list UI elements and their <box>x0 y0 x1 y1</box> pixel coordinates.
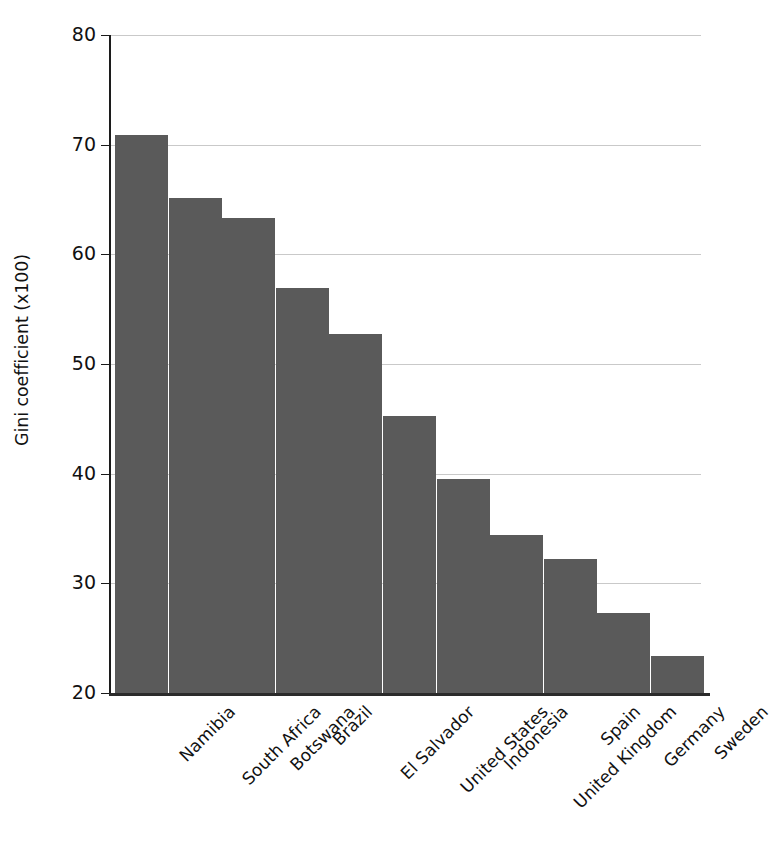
y-axis-title: Gini coefficient (x100) <box>0 0 44 700</box>
bar[interactable] <box>169 198 222 693</box>
bar[interactable] <box>222 218 275 693</box>
x-axis-label: United States <box>457 703 550 796</box>
y-tick-label: 40 <box>48 464 96 483</box>
bar[interactable] <box>329 334 382 693</box>
x-axis-label: Brazil <box>330 703 376 749</box>
bar[interactable] <box>383 416 436 693</box>
bar[interactable] <box>437 479 490 693</box>
bar[interactable] <box>597 613 650 693</box>
bar[interactable] <box>115 135 168 693</box>
plot-area <box>110 35 701 693</box>
y-tick-label: 70 <box>48 135 96 154</box>
y-tick-label: 50 <box>48 354 96 373</box>
y-axis-line <box>109 35 111 694</box>
x-axis-label: South Africa <box>239 703 324 788</box>
x-axis-label: Germany <box>661 703 728 770</box>
x-axis-label: Sweden <box>711 703 771 763</box>
y-axis-title-label: Gini coefficient (x100) <box>12 254 32 446</box>
bar[interactable] <box>490 535 543 693</box>
bar[interactable] <box>651 656 704 693</box>
gridline <box>110 145 701 146</box>
y-tick-label: 60 <box>48 244 96 263</box>
x-axis-line <box>109 693 710 696</box>
gridline <box>110 35 701 36</box>
y-tick-label: 20 <box>48 683 96 702</box>
x-axis-label: Spain <box>598 703 644 749</box>
x-axis-label: United Kingdom <box>571 703 680 812</box>
x-axis-label: Indonesia <box>501 703 571 773</box>
x-axis-label: Namibia <box>176 703 238 765</box>
x-axis-label: El Salvador <box>398 703 478 783</box>
y-tick-label: 30 <box>48 573 96 592</box>
y-tick-label: 80 <box>48 25 96 44</box>
bar[interactable] <box>276 288 329 693</box>
bar[interactable] <box>544 559 597 693</box>
x-axis-label: Botswana <box>287 703 358 774</box>
